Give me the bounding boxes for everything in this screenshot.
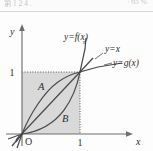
- curve-label-g: y=g(x): [112, 58, 139, 69]
- region-label-a: A: [37, 81, 45, 92]
- y-axis-arrowhead: [19, 24, 25, 31]
- origin-label: O: [25, 136, 32, 147]
- leader-identity: [95, 53, 103, 59]
- coordinate-plot: y x O 1 1 A B y=f(x) y=x y=g(x): [0, 12, 153, 151]
- y-axis-label: y: [9, 26, 15, 37]
- curve-label-identity: y=x: [104, 44, 121, 54]
- x-axis-label: x: [135, 136, 141, 147]
- y-tick-1: 1: [10, 67, 15, 78]
- scan-header-strip: 第 1 2 4 . · 65 %: [0, 0, 153, 12]
- scan-fragment-left: 第 1 2 4 .: [4, 0, 32, 8]
- figure-page: 第 1 2 4 . · 65 %: [0, 0, 153, 151]
- region-label-b: B: [62, 113, 69, 124]
- math-figure: y x O 1 1 A B y=f(x) y=x y=g(x): [0, 12, 153, 151]
- x-axis-arrowhead: [126, 131, 133, 137]
- scan-fragment-right: · 65 %: [127, 0, 147, 6]
- x-tick-1: 1: [78, 137, 83, 148]
- curve-label-f: y=f(x): [63, 32, 88, 43]
